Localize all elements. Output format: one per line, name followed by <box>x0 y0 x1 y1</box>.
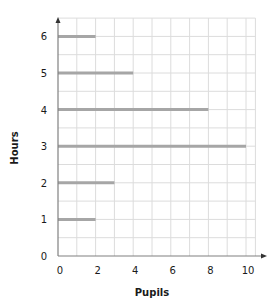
x-tick-label: 8 <box>207 265 213 276</box>
y-tick-label: 1 <box>41 214 47 225</box>
y-tick-label: 6 <box>41 31 47 42</box>
y-tick-label: 5 <box>41 68 47 79</box>
x-tick-label: 2 <box>94 265 100 276</box>
y-tick-labels: 0123456 <box>41 31 47 262</box>
x-tick-labels: 0246810 <box>57 265 255 276</box>
axes <box>56 17 268 259</box>
bar-chart: 0123456 0246810 Pupils Hours <box>0 0 277 303</box>
x-tick-label: 10 <box>242 265 255 276</box>
y-tick-label: 4 <box>41 105 47 116</box>
x-tick-label: 4 <box>132 265 138 276</box>
y-axis-label: Hours <box>9 131 20 164</box>
y-tick-label: 3 <box>41 141 47 152</box>
y-tick-label: 2 <box>41 178 47 189</box>
y-tick-label: 0 <box>41 251 47 262</box>
x-axis-label: Pupils <box>135 287 169 298</box>
x-tick-label: 6 <box>170 265 176 276</box>
x-axis-arrow-icon <box>261 254 267 259</box>
x-tick-label: 0 <box>57 265 63 276</box>
